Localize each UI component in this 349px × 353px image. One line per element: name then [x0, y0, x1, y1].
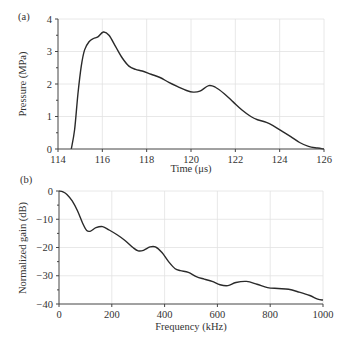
panel-a-y-axis-label: Pressure (MPa)	[17, 51, 29, 117]
pressure-curve	[71, 32, 324, 149]
y-tick-label: 0	[48, 186, 53, 197]
panel-a-label: (a)	[18, 11, 30, 23]
y-tick-label: −10	[37, 214, 53, 225]
panel-b-gain-chart: 0−10−20−30−4002004006008001000 (b) Frequ…	[17, 174, 334, 333]
panel-b-x-axis-label: Frequency (kHz)	[155, 321, 227, 333]
panel-a-x-axis-label: Time (μs)	[170, 163, 212, 175]
y-tick-label: −40	[37, 299, 53, 310]
x-tick-label: 0	[56, 309, 61, 320]
x-tick-label: 200	[104, 309, 120, 320]
x-tick-label: 126	[316, 154, 332, 165]
figure: 01234114116118120122124126 (a) Time (μs)…	[0, 0, 349, 353]
y-tick-label: 1	[47, 111, 52, 122]
panel-b-grid	[59, 191, 323, 304]
panel-a-tick-labels: 01234114116118120122124126	[47, 14, 332, 166]
gain-curve	[59, 191, 323, 300]
y-tick-label: −30	[37, 270, 53, 281]
y-tick-label: 0	[47, 144, 52, 155]
y-tick-label: −20	[37, 242, 53, 253]
x-tick-label: 118	[139, 154, 154, 165]
x-tick-label: 124	[272, 154, 289, 165]
x-tick-label: 600	[210, 309, 226, 320]
x-tick-label: 400	[157, 309, 173, 320]
x-tick-label: 114	[50, 154, 66, 165]
x-tick-label: 800	[262, 309, 278, 320]
panel-a-pressure-chart: 01234114116118120122124126 (a) Time (μs)…	[17, 11, 332, 175]
y-tick-label: 2	[47, 79, 52, 90]
panel-b-axes	[56, 191, 323, 307]
x-tick-label: 116	[95, 154, 110, 165]
y-tick-label: 4	[47, 14, 53, 25]
panel-a-grid	[58, 19, 324, 149]
panel-b-y-axis-label: Normalized gain (dB)	[17, 201, 29, 294]
y-tick-label: 3	[47, 46, 52, 57]
panel-b-tick-labels: 0−10−20−30−4002004006008001000	[37, 186, 334, 321]
x-tick-label: 1000	[313, 309, 334, 320]
panel-b-label: (b)	[20, 174, 33, 186]
x-tick-label: 122	[227, 154, 243, 165]
